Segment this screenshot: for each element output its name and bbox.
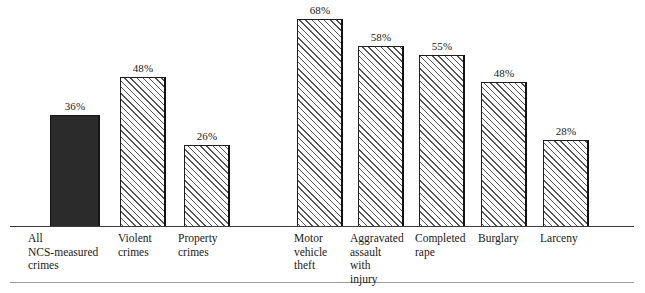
bar — [297, 19, 343, 227]
plot-area: 36%48%26%68%58%55%48%28% — [0, 0, 645, 227]
bar-value-label: 58% — [346, 31, 416, 43]
bar-value-label: 48% — [469, 67, 539, 79]
bar — [50, 115, 100, 227]
category-label: All NCS-measured crimes — [28, 232, 128, 273]
bar-value-label: 28% — [531, 125, 601, 137]
bar-value-label: 36% — [40, 100, 110, 112]
bar — [543, 140, 589, 227]
bar-value-label: 48% — [108, 62, 178, 74]
bar-chart: 36%48%26%68%58%55%48%28% All NCS-measure… — [0, 0, 645, 293]
bar — [419, 55, 465, 227]
bar-value-label: 55% — [407, 40, 477, 52]
bar — [120, 77, 166, 227]
x-axis-baseline — [10, 226, 634, 227]
bar — [358, 46, 404, 227]
bottom-divider-rule — [10, 282, 634, 283]
category-label: Burglary — [478, 232, 548, 246]
category-label: Larceny — [540, 232, 610, 246]
bar — [481, 82, 527, 227]
bar-value-label: 26% — [172, 130, 242, 142]
category-label: Property crimes — [178, 232, 258, 259]
bar-value-label: 68% — [285, 4, 355, 16]
bar — [184, 145, 230, 227]
